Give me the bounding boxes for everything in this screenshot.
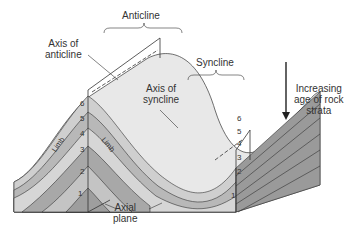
- axial-plane-label: Axial plane: [113, 202, 137, 224]
- stratum-number: 5: [237, 128, 241, 136]
- stratum-number: 1: [78, 190, 82, 198]
- age-label: Increasing age of rock strata: [294, 83, 343, 116]
- anticline-label: Anticline: [122, 10, 160, 21]
- axis-of-anticline-label: Axis of anticline: [45, 38, 82, 60]
- stratum-number: 4: [80, 130, 84, 138]
- stratum-number: 3: [237, 154, 241, 162]
- axis-of-syncline-label: Axis of syncline: [143, 83, 179, 105]
- stratum-number: 4: [237, 140, 241, 148]
- stratum-number: 1: [231, 192, 235, 200]
- stratum-number: 2: [80, 168, 84, 176]
- syncline-label: Syncline: [196, 57, 234, 68]
- stratum-number: 5: [80, 115, 84, 123]
- age-arrow: [282, 62, 290, 120]
- stratum-number: 6: [80, 100, 84, 108]
- stratum-number: 3: [80, 146, 84, 154]
- stratum-number: 2: [237, 168, 241, 176]
- stratum-number: 6: [237, 115, 241, 123]
